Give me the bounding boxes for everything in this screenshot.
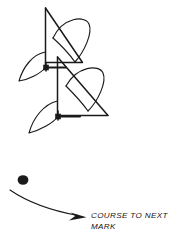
sailing-diagram-canvas: [0, 0, 176, 244]
course-to-next-mark-arrow: [10, 190, 87, 220]
boat-upper-jib-foot: [53, 38, 75, 62]
boat-upper-port-sail: [19, 52, 46, 81]
boat-lower-mast-base: [55, 114, 61, 120]
course-arrow-curve: [10, 190, 78, 216]
boat-upper-mast-base: [43, 65, 49, 71]
boat-upper: [19, 8, 90, 81]
boat-upper-jib: [53, 19, 90, 62]
boat-lower-mainsail: [58, 57, 109, 116]
boat-lower: [29, 57, 108, 133]
course-to-next-mark-label: COURSE TO NEXT MARK: [91, 210, 175, 232]
boat-upper-mainsail: [46, 8, 83, 63]
boat-lower-jib-foot: [66, 86, 88, 111]
boat-lower-port-sail: [29, 101, 58, 133]
diagram-page: COURSE TO NEXT MARK: [0, 0, 176, 244]
rounding-mark-icon: [18, 175, 29, 185]
